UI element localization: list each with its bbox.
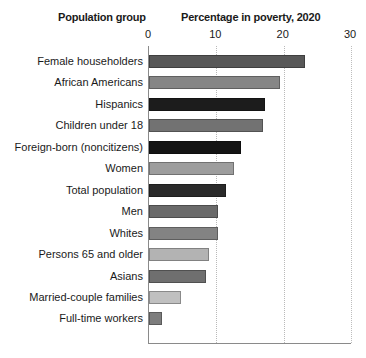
bar-row: Persons 65 and older: [149, 244, 351, 265]
category-label: Foreign-born (noncitizens): [15, 140, 143, 154]
bar-row: Women: [149, 158, 351, 179]
bar-row: Foreign-born (noncitizens): [149, 137, 351, 158]
category-label: African Americans: [54, 75, 143, 89]
x-tick-label-20: 20: [277, 28, 289, 40]
poverty-bar-chart: Population group Percentage in poverty, …: [0, 0, 366, 358]
category-label: Whites: [109, 226, 143, 240]
category-label: Full-time workers: [59, 311, 143, 325]
bar: [149, 141, 241, 154]
chart-title: Percentage in poverty, 2020: [181, 11, 320, 23]
plot-area: Female householdersAfrican AmericansHisp…: [148, 46, 351, 344]
bar: [149, 248, 209, 261]
bar: [149, 55, 305, 68]
bar-row: Female householders: [149, 51, 351, 72]
bar: [149, 76, 280, 89]
category-column-title: Population group: [58, 11, 146, 23]
x-axis-tick-labels: 0102030: [0, 28, 366, 44]
category-label: Women: [105, 161, 143, 175]
bar-row: Hispanics: [149, 94, 351, 115]
bar: [149, 162, 234, 175]
category-label: Asians: [110, 269, 143, 283]
bar-row: Asians: [149, 266, 351, 287]
bar-rows: Female householdersAfrican AmericansHisp…: [149, 46, 351, 343]
bar-row: African Americans: [149, 72, 351, 93]
bar-row: Married-couple families: [149, 287, 351, 308]
bar: [149, 184, 226, 197]
category-label: Persons 65 and older: [38, 247, 143, 261]
category-label: Children under 18: [56, 118, 143, 132]
x-tick-label-0: 0: [145, 28, 151, 40]
bar: [149, 227, 218, 240]
bar: [149, 119, 263, 132]
bar: [149, 291, 181, 304]
gridline-30: [351, 46, 352, 343]
bar-row: Children under 18: [149, 115, 351, 136]
category-label: Female householders: [37, 54, 143, 68]
x-tick-label-30: 30: [344, 28, 356, 40]
bar-row: Whites: [149, 223, 351, 244]
bar: [149, 270, 206, 283]
category-label: Hispanics: [95, 97, 143, 111]
category-label: Married-couple families: [29, 290, 143, 304]
category-label: Total population: [66, 183, 143, 197]
bar: [149, 98, 265, 111]
category-label: Men: [122, 204, 143, 218]
bar: [149, 205, 218, 218]
bar-row: Total population: [149, 180, 351, 201]
x-tick-label-10: 10: [209, 28, 221, 40]
bar-row: Men: [149, 201, 351, 222]
bar-row: Full-time workers: [149, 308, 351, 329]
bar: [149, 312, 162, 325]
